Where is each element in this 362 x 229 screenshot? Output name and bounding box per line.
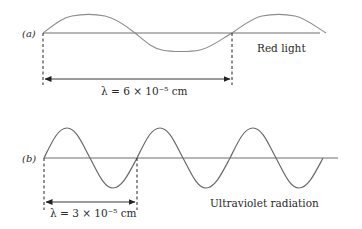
caption-red-light: Red light: [257, 42, 306, 54]
wavelength-label-b: λ = 3 × 10⁻⁵ cm: [50, 207, 137, 219]
wavelength-comparison-diagram: (a) λ = 6 × 10⁻⁵ cm Red light (b) λ = 3 …: [0, 0, 362, 229]
wavelength-label-a: λ = 6 × 10⁻⁵ cm: [101, 85, 188, 97]
panel-b-ultraviolet: (b) λ = 3 × 10⁻⁵ cm Ultraviolet radiatio…: [22, 128, 338, 219]
caption-ultraviolet-radiation: Ultraviolet radiation: [210, 197, 319, 209]
panel-a-red-light: (a) λ = 6 × 10⁻⁵ cm Red light: [22, 15, 326, 98]
panel-b-label: (b): [22, 153, 36, 164]
panel-a-label: (a): [22, 28, 36, 39]
